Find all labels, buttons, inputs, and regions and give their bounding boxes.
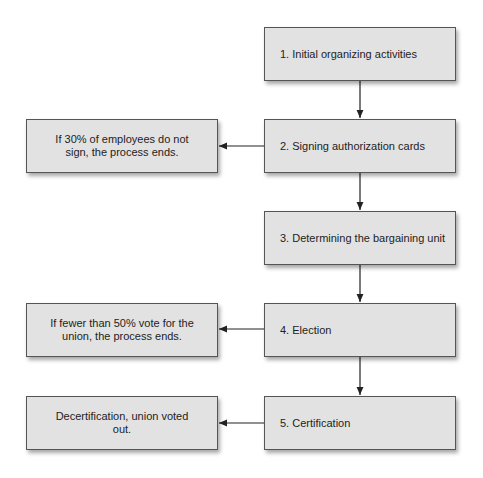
step-certification: 5. Certification [264,396,456,450]
step-election: 4. Election [264,303,456,357]
outcome-label: If 30% of employees do not sign, the pro… [47,133,197,159]
outcome-signing-fail: If 30% of employees do not sign, the pro… [26,119,218,173]
outcome-election-fail: If fewer than 50% vote for the union, th… [26,303,218,357]
step-label: 1. Initial organizing activities [280,48,417,61]
step-label: 3. Determining the bargaining unit [280,232,445,245]
outcome-label: If fewer than 50% vote for the union, th… [47,317,197,343]
step-bargaining-unit: 3. Determining the bargaining unit [264,211,456,265]
step-label: 2. Signing authorization cards [280,140,425,153]
step-label: 5. Certification [280,417,350,430]
outcome-decertification: Decertification, union voted out. [26,396,218,450]
step-initial-organizing: 1. Initial organizing activities [264,27,456,81]
step-label: 4. Election [280,324,331,337]
step-signing-cards: 2. Signing authorization cards [264,119,456,173]
outcome-label: Decertification, union voted out. [47,410,197,436]
